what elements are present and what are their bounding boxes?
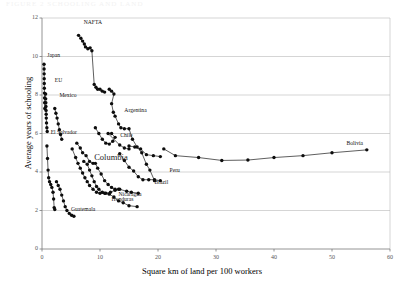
data-point-mexico [57, 122, 60, 125]
data-point-brazil [137, 175, 140, 178]
data-point-honduras [88, 184, 91, 187]
data-point-columbia [96, 166, 99, 169]
data-point-chile [101, 138, 104, 141]
data-point-mexico [60, 138, 63, 141]
data-point-nicaragua [113, 189, 116, 192]
data-point-brazil [127, 165, 130, 168]
y-tick-label: 2 [26, 207, 38, 213]
data-point-eu [45, 126, 48, 129]
data-point-guatemala [58, 188, 61, 191]
data-point-bolivia [174, 154, 177, 157]
data-point-japan [42, 67, 45, 70]
data-point-argentina [148, 168, 151, 171]
data-point-nafta [83, 42, 86, 45]
data-point-argentina [112, 111, 115, 114]
data-point-chile [104, 141, 107, 144]
data-point-argentina [110, 89, 113, 92]
data-point-columbia [110, 186, 113, 189]
data-point-nafta [81, 39, 84, 42]
data-point-eu [45, 116, 48, 119]
data-point-argentina [119, 126, 122, 129]
x-tick-label: 50 [322, 254, 342, 260]
data-point-nicaragua [95, 185, 98, 188]
data-point-el-salvador [52, 197, 55, 200]
figure-container: FIGURE 2 SCHOOLING AND LAND Average year… [0, 0, 404, 289]
data-point-brazil [147, 178, 150, 181]
data-point-bolivia [272, 156, 275, 159]
data-point-japan [42, 62, 45, 65]
data-point-brazil [132, 169, 135, 172]
data-point-guatemala [60, 193, 63, 196]
y-tick-label: 4 [26, 168, 38, 174]
data-point-el-salvador [45, 144, 48, 147]
y-tick-label: 8 [26, 91, 38, 97]
y-tick-label: 10 [26, 53, 38, 59]
data-point-japan [43, 82, 46, 85]
data-point-chile [113, 136, 116, 139]
data-point-peru [159, 155, 162, 158]
scatter-line-chart [0, 0, 404, 289]
data-point-argentina [112, 92, 115, 95]
data-point-honduras [79, 166, 82, 169]
data-point-honduras [83, 176, 86, 179]
data-point-bolivia [246, 158, 249, 161]
data-point-el-salvador [47, 176, 50, 179]
data-point-columbia [94, 162, 97, 165]
data-point-argentina [117, 122, 120, 125]
series-label-el-salvador: El Salvador [51, 129, 77, 135]
series-label-bolivia: Bolivia [347, 140, 363, 146]
data-point-peru [152, 154, 155, 157]
data-point-columbia [103, 179, 106, 182]
x-axis-title: Square km of land per 100 workers [0, 266, 404, 276]
data-point-eu [45, 121, 48, 124]
data-point-chile [97, 132, 100, 135]
series-label-peru: Peru [170, 167, 180, 173]
data-point-guatemala [55, 180, 58, 183]
series-line-columbia [77, 143, 119, 189]
data-point-honduras [127, 204, 130, 207]
data-point-nicaragua [104, 191, 107, 194]
data-point-nafta [77, 34, 80, 37]
data-point-eu [44, 97, 47, 100]
data-point-guatemala [65, 209, 68, 212]
data-point-argentina [145, 163, 148, 166]
data-point-nicaragua [101, 191, 104, 194]
data-point-columbia [99, 172, 102, 175]
data-point-guatemala [62, 199, 65, 202]
data-point-honduras [86, 180, 89, 183]
data-point-el-salvador [50, 186, 53, 189]
data-point-el-salvador [46, 168, 49, 171]
x-tick-label: 20 [148, 254, 168, 260]
series-label-eu: EU [55, 77, 62, 83]
x-tick-label: 40 [264, 254, 284, 260]
y-tick-label: 6 [26, 130, 38, 136]
x-tick-label: 30 [206, 254, 226, 260]
data-point-argentina [110, 102, 113, 105]
x-tick-label: 10 [90, 254, 110, 260]
data-point-eu [44, 101, 47, 104]
data-point-honduras [95, 191, 98, 194]
series-label-columbia: Columbia [94, 152, 128, 162]
data-point-honduras [70, 147, 73, 150]
data-point-honduras [76, 162, 79, 165]
data-point-columbia [84, 154, 87, 157]
data-point-bolivia [301, 154, 304, 157]
series-label-japan: Japan [47, 52, 60, 58]
data-point-nafta [79, 37, 82, 40]
data-point-el-salvador [53, 208, 56, 211]
data-point-columbia [79, 146, 82, 149]
series-label-guatemala: Guatemala [71, 206, 95, 212]
data-point-argentina [123, 127, 126, 130]
data-point-nafta [103, 90, 106, 93]
data-point-bolivia [220, 159, 223, 162]
data-point-mexico [54, 112, 57, 115]
data-point-honduras [74, 156, 77, 159]
data-point-columbia [75, 141, 78, 144]
data-point-nafta [90, 49, 93, 52]
data-point-guatemala [72, 215, 75, 218]
data-point-eu [46, 130, 49, 133]
data-point-eu [44, 109, 47, 112]
data-point-brazil [141, 178, 144, 181]
data-point-honduras [81, 171, 84, 174]
data-point-argentina [113, 114, 116, 117]
